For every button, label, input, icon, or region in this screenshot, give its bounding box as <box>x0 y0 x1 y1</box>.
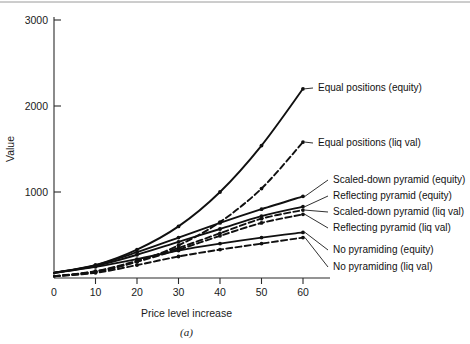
figure-caption: (a) <box>180 326 193 339</box>
x-tick-label: 20 <box>131 286 143 298</box>
series-marker-1 <box>301 140 305 144</box>
series-marker-2 <box>260 207 264 211</box>
leader-line-7 <box>305 238 328 267</box>
series-marker-7 <box>177 255 181 259</box>
series-marker-5 <box>260 221 264 225</box>
series-marker-6 <box>135 257 139 261</box>
figure-container: 1000200030000102030405060 Equal position… <box>0 0 470 344</box>
leader-line-1 <box>305 142 313 143</box>
series-marker-0 <box>218 190 222 194</box>
legend-label-7: No pyramiding (liq val) <box>333 261 432 272</box>
series-marker-5 <box>218 234 222 238</box>
series-marker-6 <box>177 249 181 253</box>
y-tick-label: 2000 <box>25 100 49 112</box>
series-marker-2 <box>301 194 305 198</box>
legend-labels: Equal positions (equity)Equal positions … <box>318 82 465 272</box>
legend-label-1: Equal positions (liq val) <box>318 137 421 148</box>
series-marker-2 <box>218 221 222 225</box>
series-marker-7 <box>301 236 305 240</box>
series-marker-1 <box>260 187 264 191</box>
series-marker-6 <box>301 231 305 235</box>
series-marker-3 <box>301 205 305 209</box>
legend-label-0: Equal positions (equity) <box>318 82 422 93</box>
chart-series <box>54 87 305 276</box>
series-marker-4 <box>301 208 305 212</box>
series-marker-3 <box>177 240 181 244</box>
x-axis-title: Price level increase <box>141 307 232 319</box>
series-marker-6 <box>94 265 98 269</box>
chart-titles: Price level increaseValue(a) <box>4 136 232 339</box>
legend-leader-lines <box>305 88 328 267</box>
series-marker-0 <box>177 225 181 229</box>
line-chart: 1000200030000102030405060 Equal position… <box>0 0 470 344</box>
x-tick-label: 10 <box>90 286 102 298</box>
series-marker-2 <box>177 236 181 240</box>
series-marker-5 <box>301 212 305 216</box>
x-tick-label: 0 <box>51 286 57 298</box>
legend-label-5: Reflecting pyramid (liq val) <box>333 222 451 233</box>
x-tick-label: 60 <box>297 286 309 298</box>
series-marker-6 <box>260 236 264 240</box>
leader-line-6 <box>305 232 328 250</box>
y-axis-title: Value <box>4 136 16 162</box>
series-marker-3 <box>218 227 222 231</box>
series-marker-0 <box>260 144 264 148</box>
legend-label-4: Scaled-down pyramid (liq val) <box>333 206 464 217</box>
legend-label-2: Scaled-down pyramid (equity) <box>333 174 465 185</box>
x-tick-label: 30 <box>173 286 185 298</box>
series-marker-0 <box>301 87 305 91</box>
series-line-2 <box>54 196 303 273</box>
x-tick-label: 40 <box>214 286 226 298</box>
y-tick-label: 3000 <box>25 14 49 26</box>
y-tick-label: 1000 <box>25 186 49 198</box>
leader-line-4 <box>305 210 328 212</box>
series-line-3 <box>54 207 303 273</box>
legend-label-6: No pyramiding (equity) <box>333 244 434 255</box>
legend-label-3: Reflecting pyramid (equity) <box>333 190 452 201</box>
leader-line-2 <box>305 180 328 196</box>
series-marker-7 <box>218 248 222 252</box>
leader-line-3 <box>305 196 328 207</box>
series-marker-7 <box>94 271 98 275</box>
series-marker-7 <box>135 263 139 267</box>
series-marker-3 <box>135 253 139 257</box>
x-tick-label: 50 <box>256 286 268 298</box>
leader-line-0 <box>305 88 313 89</box>
leader-line-5 <box>305 214 328 228</box>
series-marker-6 <box>218 242 222 246</box>
series-marker-4 <box>260 217 264 221</box>
series-marker-7 <box>260 242 264 246</box>
